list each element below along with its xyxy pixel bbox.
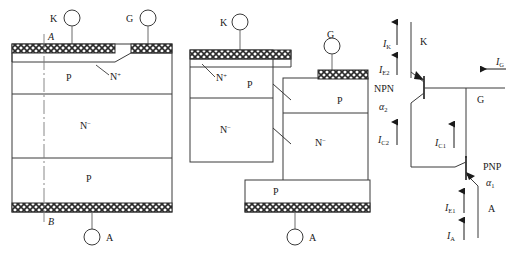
pnp-collector-lead bbox=[455, 162, 466, 167]
panel-a-terminal-a: A bbox=[84, 212, 114, 245]
figure-root: K G N+ P N− P A bbox=[0, 0, 514, 256]
panel-a-label-g: G bbox=[126, 13, 133, 24]
panel-a-terminal-k: K bbox=[50, 10, 80, 47]
npn-collector-lead bbox=[411, 93, 424, 103]
panel-a-anode-metal bbox=[12, 203, 172, 212]
terminal-circle-k bbox=[232, 14, 248, 30]
panel-c-current-ia: IA bbox=[446, 230, 455, 242]
panel-a-section-label-top: A bbox=[47, 31, 55, 42]
panel-a-label-a: A bbox=[106, 232, 114, 243]
terminal-circle-a bbox=[84, 229, 100, 245]
panel-b-label-k: K bbox=[220, 17, 228, 28]
panel-b-label-a: A bbox=[309, 232, 317, 243]
panel-c-current-ic1: IC1 bbox=[434, 137, 446, 149]
panel-a-cathode-metal bbox=[12, 44, 115, 53]
terminal-circle-g bbox=[140, 10, 156, 26]
panel-a-section-label-bottom: B bbox=[48, 216, 54, 227]
panel-c-pnp-alpha: α1 bbox=[486, 177, 495, 189]
panel-b-label-p-emitter: P bbox=[273, 186, 279, 197]
panel-c-npn-label: NPN bbox=[374, 83, 394, 94]
panel-c-npn-alpha: α2 bbox=[379, 101, 388, 113]
panel-c-pnp-transistor bbox=[455, 156, 478, 186]
panel-b-right-block bbox=[283, 78, 368, 183]
panel-b-cathode-metal bbox=[190, 50, 291, 59]
panel-b-label-g: G bbox=[327, 29, 334, 40]
panel-a-label-k: K bbox=[50, 13, 58, 24]
panel-c-npn-transistor bbox=[411, 71, 466, 103]
panel-c-label-g: G bbox=[477, 94, 484, 105]
panel-b-label-p-base-right: P bbox=[337, 95, 343, 106]
panel-c: IK K IE2 NPN α2 IC2 G IG IC1 bbox=[374, 22, 506, 242]
panel-b-label-p-base: P bbox=[247, 79, 253, 90]
npn-emitter-arrow bbox=[414, 71, 424, 80]
panel-a-gate-metal bbox=[131, 44, 172, 53]
panel-b-terminal-a: A bbox=[287, 212, 317, 245]
panel-c-current-ie2: IE2 bbox=[378, 64, 390, 76]
panel-c-label-a: A bbox=[488, 203, 496, 214]
panel-c-pnp-label: PNP bbox=[483, 161, 502, 172]
panel-c-current-ic2: IC2 bbox=[377, 134, 389, 146]
panel-b-anode-metal bbox=[245, 203, 370, 212]
panel-b-terminal-k: K bbox=[220, 14, 248, 50]
panel-c-current-ig: IG bbox=[495, 56, 504, 68]
panel-c-current-ie1: IE1 bbox=[444, 202, 456, 214]
terminal-circle-g bbox=[324, 38, 340, 54]
panel-a-label-p-emitter: P bbox=[86, 173, 92, 184]
panel-b: K G N+ P N− P N− P bbox=[190, 14, 370, 245]
panel-a-body-outline bbox=[12, 44, 172, 212]
panel-a-terminal-g: G bbox=[126, 10, 156, 44]
terminal-circle-a bbox=[287, 229, 303, 245]
panel-c-label-k: K bbox=[420, 36, 428, 47]
panel-a-label-p-base: P bbox=[66, 72, 72, 83]
diagram-svg: K G N+ P N− P A bbox=[0, 0, 514, 256]
panel-b-terminal-g: G bbox=[324, 29, 340, 72]
panel-a: K G N+ P N− P A bbox=[12, 10, 172, 245]
terminal-circle-k bbox=[64, 10, 80, 26]
panel-c-current-ik: IK bbox=[382, 38, 391, 50]
panel-b-gate-metal bbox=[318, 70, 368, 79]
